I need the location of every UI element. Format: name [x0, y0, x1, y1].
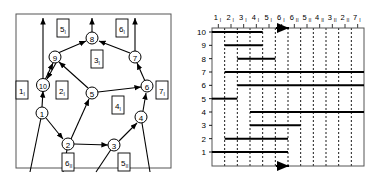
x-tick-subscript: I: [283, 17, 284, 23]
y-tick-2: 2: [202, 135, 207, 144]
graph-canvas: 1 2 3 4 5 6 7 8 9 10 1I2I3I4I5I6I7I6II5I…: [0, 0, 186, 181]
face-label-f2: 2I: [56, 81, 68, 99]
edge-3-4: [119, 123, 137, 141]
vertex-3: 3: [108, 139, 120, 151]
y-tick-9: 9: [202, 41, 207, 50]
edge-6-7: [137, 63, 145, 81]
x-tick-1-I: 1I: [214, 13, 221, 28]
face-label-f4: 4I: [112, 96, 124, 114]
x-tick-5-I: 5I: [264, 13, 271, 28]
x-tick-subscript: II: [309, 17, 312, 23]
x-tick-subscript: I: [271, 17, 272, 23]
face-label-subscript: I: [64, 91, 65, 97]
x-tick-number: 3: [239, 13, 243, 22]
y-tick-7: 7: [202, 68, 207, 77]
vertex-1: 1: [36, 107, 48, 119]
edge-4-6: [143, 93, 146, 111]
x-tick-number: 4: [252, 13, 256, 22]
x-tick-number: 3: [328, 13, 332, 22]
x-tick-2-II: 2II: [340, 13, 349, 28]
x-tick-subscript: I: [233, 17, 234, 23]
x-tick-4-II: 4II: [315, 13, 324, 28]
x-tick-2-I: 2I: [226, 13, 233, 28]
x-tick-subscript: I: [359, 17, 360, 23]
face-label-subscript: I: [164, 91, 165, 97]
edge-5-6: [98, 87, 141, 92]
y-tick-1: 1: [202, 148, 207, 157]
x-tick-number: 5: [264, 13, 268, 22]
y-tick-10: 10: [197, 28, 206, 37]
x-tick-3-I: 3I: [239, 13, 246, 28]
figure-root: 1 2 3 4 5 6 7 8 9 10 1I2I3I4I5I6I7I6II5I…: [0, 0, 372, 181]
vertex-2: 2: [62, 138, 74, 150]
face-label-subscript: I: [120, 106, 121, 112]
svg-text:9: 9: [53, 54, 58, 63]
grid-lines: [225, 28, 352, 166]
svg-text:4: 4: [139, 114, 144, 123]
edge-9-8: [58, 41, 86, 53]
edge-7-8: [99, 41, 130, 53]
vertex-10: 10: [37, 79, 50, 92]
left-graph-panel: 1 2 3 4 5 6 7 8 9 10 1I2I3I4I5I6I7I6II5I…: [0, 0, 186, 181]
x-tick-number: 2: [340, 13, 344, 22]
face-label-subscript: I: [99, 60, 100, 66]
x-tick-subscript: II: [296, 17, 299, 23]
svg-text:10: 10: [39, 83, 47, 90]
x-tick-subscript: I: [258, 17, 259, 23]
face-label-subscript: I: [24, 91, 25, 97]
x-tick-number: 2: [226, 13, 230, 22]
y-tick-4: 4: [202, 108, 207, 117]
face-label-f3: 3I: [91, 50, 103, 68]
y-tick-6: 6: [202, 81, 207, 90]
y-tick-5: 5: [202, 95, 207, 104]
x-tick-7-I: 7I: [353, 13, 360, 28]
x-tick-number: 6: [277, 13, 281, 22]
x-tick-subscript: II: [321, 17, 324, 23]
edge-2-3: [74, 144, 108, 145]
x-tick-6-I: 6I: [277, 13, 284, 28]
face-label-subscript: II: [126, 163, 129, 169]
face-label-subscript: II: [70, 163, 73, 169]
x-tick-3-II: 3II: [328, 13, 337, 28]
edge-1-2: [46, 118, 63, 139]
svg-text:1: 1: [40, 110, 45, 119]
face-label-f6b: 6II: [62, 153, 74, 171]
x-tick-number: 7: [353, 13, 357, 22]
svg-text:6: 6: [145, 83, 150, 92]
x-tick-number: 1: [214, 13, 218, 22]
x-tick-6-II: 6II: [290, 13, 299, 28]
svg-text:3: 3: [112, 142, 117, 151]
vertex-8: 8: [86, 32, 98, 44]
y-tick-3: 3: [202, 121, 207, 130]
y-tick-8: 8: [202, 55, 207, 64]
x-tick-number: 5: [302, 13, 306, 22]
face-label-f6a: 6I: [116, 19, 128, 37]
x-axis-tick-labels: 1I2I3I4I5I6I6II5II4II3II2II7I: [214, 13, 361, 28]
right-barcode-panel: 1I2I3I4I5I6I6II5II4II3II2II7I 1098765432…: [186, 0, 372, 181]
y-axis-tick-labels: 10987654321: [197, 28, 212, 157]
x-tick-number: 4: [315, 13, 319, 22]
svg-text:2: 2: [66, 141, 71, 150]
face-label-subscript: I: [65, 29, 66, 35]
svg-text:7: 7: [133, 54, 138, 63]
face-label-f5a: 5I: [57, 19, 69, 37]
vertex-7: 7: [129, 51, 141, 63]
x-tick-number: 6: [290, 13, 294, 22]
face-label-f5b: 5II: [118, 153, 130, 171]
x-tick-subscript: I: [220, 17, 221, 23]
edge-2-5: [71, 99, 89, 139]
vertex-5: 5: [86, 87, 98, 99]
svg-text:5: 5: [90, 90, 95, 99]
face-label-f7: 7I: [156, 81, 168, 99]
vertex-4: 4: [135, 111, 147, 123]
face-label-subscript: I: [124, 29, 125, 35]
barcode-canvas: 1I2I3I4I5I6I6II5II4II3II2II7I 1098765432…: [186, 0, 372, 181]
vertex-9: 9: [49, 51, 61, 63]
x-tick-5-II: 5II: [302, 13, 311, 28]
x-tick-subscript: II: [347, 17, 350, 23]
vertex-6: 6: [141, 80, 153, 92]
x-tick-4-I: 4I: [252, 13, 259, 28]
x-tick-subscript: II: [334, 17, 337, 23]
svg-text:8: 8: [90, 35, 95, 44]
direction-arrows: [276, 28, 289, 166]
